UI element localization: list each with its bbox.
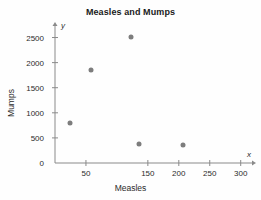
x-tick-label: 250 [195,169,225,178]
axis-lines [55,26,252,163]
y-tick-label: 2500 [14,33,44,42]
scatter-point [128,34,133,39]
y-axis-letter: y [61,21,65,30]
y-tick-label: 500 [14,133,44,142]
x-tick-label: 150 [133,169,163,178]
y-tick-label: 1000 [14,108,44,117]
scatter-point [181,143,186,148]
y-tick-label: 2000 [14,58,44,67]
y-tick-label: 1500 [14,83,44,92]
x-tick-label: 50 [71,169,101,178]
x-tick-label: 300 [226,169,256,178]
y-tick-label: 0 [14,159,44,168]
x-axis-letter: x [247,150,251,159]
x-tick-label: 200 [164,169,194,178]
y-axis-title: Mumps [6,78,16,128]
axis-arrow-icon [53,22,257,166]
scatter-point [68,120,73,125]
scatter-point [136,141,141,146]
scatter-point [88,68,93,73]
x-axis-title: Measles [0,183,261,193]
chart-figure: Measles and Mumps 05001000150020002500 5… [0,0,261,200]
tick-marks [52,38,241,166]
